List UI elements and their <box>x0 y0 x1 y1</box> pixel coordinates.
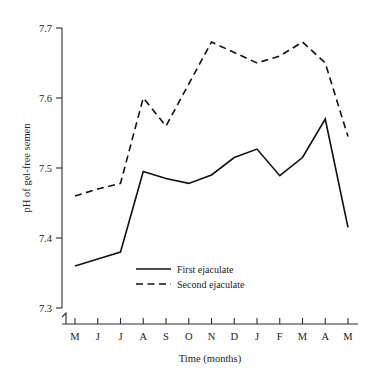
x-axis-tick-labels: MJJASONDJFMAM <box>70 331 353 342</box>
axis-break-mark <box>62 313 66 324</box>
x-axis-tick-label: M <box>343 331 353 342</box>
x-axis-tick-label: M <box>70 331 80 342</box>
x-axis-tick-label: D <box>230 331 238 342</box>
x-axis-tick-label: J <box>255 331 259 342</box>
y-axis-tick-labels: 7.37.47.57.67.7 <box>39 23 53 314</box>
data-series-group <box>75 42 348 266</box>
y-axis-tick-label: 7.5 <box>39 163 52 174</box>
series-line-second-ejaculate <box>75 42 348 196</box>
series-line-first-ejaculate <box>75 119 348 266</box>
legend-label-second-ejaculate: Second ejaculate <box>177 279 245 290</box>
x-axis-tick-label: F <box>277 331 283 342</box>
x-axis-tick-label: A <box>139 331 147 342</box>
x-axis-tick-label: M <box>298 331 308 342</box>
x-axis-tick-label: J <box>96 331 100 342</box>
x-axis-tick-label: O <box>185 331 193 342</box>
y-axis-tick-label: 7.6 <box>39 93 52 104</box>
y-axis-tick-label: 7.7 <box>39 23 52 34</box>
chart-figure: 7.37.47.57.67.7 pH of gel-free semen MJJ… <box>0 0 376 377</box>
x-axis-tick-label: A <box>321 331 329 342</box>
legend-label-first-ejaculate: First ejaculate <box>177 264 234 275</box>
y-axis-title: pH of gel-free semen <box>21 123 32 213</box>
x-axis-ticks <box>75 318 348 324</box>
y-axis-tick-label: 7.4 <box>39 233 53 244</box>
x-axis: MJJASONDJFMAM Time (months) <box>62 313 358 365</box>
x-axis-tick-label: N <box>208 331 216 342</box>
y-axis-tick-label: 7.3 <box>39 303 52 314</box>
y-axis: 7.37.47.57.67.7 pH of gel-free semen <box>21 23 62 314</box>
y-axis-ticks <box>56 28 62 308</box>
x-axis-title: Time (months) <box>179 353 242 365</box>
x-axis-tick-label: S <box>163 331 169 342</box>
x-axis-tick-label: J <box>118 331 122 342</box>
line-chart: 7.37.47.57.67.7 pH of gel-free semen MJJ… <box>0 0 376 377</box>
chart-legend: First ejaculate Second ejaculate <box>136 264 245 290</box>
